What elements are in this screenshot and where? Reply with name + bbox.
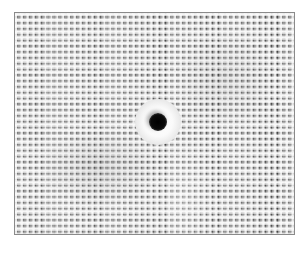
fabric-photo [14, 12, 295, 235]
eyelet-hole [149, 113, 167, 131]
